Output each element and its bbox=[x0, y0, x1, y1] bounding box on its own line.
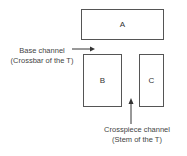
up-arrow-icon bbox=[129, 98, 134, 124]
right-arrow-icon bbox=[72, 47, 95, 52]
arrows-layer bbox=[0, 0, 187, 156]
